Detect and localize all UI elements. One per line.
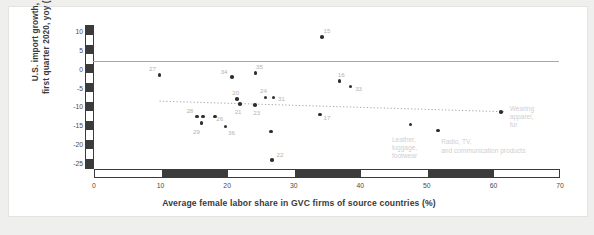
band-segment <box>86 64 93 73</box>
trend-line-segment <box>160 101 506 112</box>
plot-area: 2734351516332021243123282629361722Wearin… <box>93 25 559 169</box>
x-tick-label: 30 <box>279 182 309 189</box>
data-point-label: 21 <box>235 107 242 114</box>
x-axis-checkered-band <box>94 169 560 178</box>
band-segment <box>86 140 93 149</box>
data-point-label: 23 <box>253 108 260 115</box>
data-point-label: 33 <box>355 85 362 92</box>
y-tick-label: 5 <box>53 46 83 53</box>
x-tick-label: 60 <box>478 182 508 189</box>
data-point-label: 22 <box>277 151 284 158</box>
y-axis-title-line-1: U.S. import growth, <box>30 0 41 112</box>
band-segment <box>162 170 229 177</box>
x-tick-label: 0 <box>79 182 109 189</box>
annotation-radio-tv-communication: Radio, TV, and communication products <box>441 138 525 154</box>
band-segment <box>428 170 495 177</box>
band-segment <box>86 83 93 92</box>
band-segment <box>86 102 93 111</box>
y-tick-label: -5 <box>53 84 83 91</box>
data-point-label: 29 <box>193 128 200 135</box>
data-point-label: 34 <box>221 68 228 75</box>
y-tick-label: 0 <box>53 65 83 72</box>
y-tick-label: -10 <box>53 103 83 110</box>
figure-canvas: U.S. import growth, first quarter 2020, … <box>0 0 594 235</box>
data-point-label: 26 <box>216 115 223 122</box>
y-tick-label: -20 <box>53 141 83 148</box>
y-axis-tick-labels: 1050-5-10-15-20-25 <box>49 25 83 169</box>
data-point-label: 35 <box>256 62 263 69</box>
data-point-label: 15 <box>324 26 331 33</box>
data-point[interactable] <box>253 103 257 107</box>
y-tick-label: -25 <box>53 160 83 167</box>
data-point[interactable] <box>235 97 239 101</box>
data-point[interactable] <box>318 113 322 117</box>
band-segment <box>295 170 362 177</box>
data-point[interactable] <box>201 115 205 119</box>
x-axis-title: Average female labor share in GVC firms … <box>49 198 549 208</box>
chart-card: U.S. import growth, first quarter 2020, … <box>8 6 588 217</box>
data-point[interactable] <box>254 71 258 75</box>
y-tick-label: -15 <box>53 122 83 129</box>
x-axis-tick-labels: 010203040506070 <box>94 182 560 194</box>
data-point[interactable] <box>499 110 503 114</box>
data-point-label: 24 <box>260 87 267 94</box>
data-point[interactable] <box>436 129 440 133</box>
data-point[interactable] <box>338 79 342 83</box>
band-segment <box>86 26 93 35</box>
data-point-label: 31 <box>278 95 285 102</box>
annotation-leather-luggage-footwear: Leather, luggage, footwear <box>392 136 417 161</box>
data-point-label: 27 <box>149 65 156 72</box>
data-point[interactable] <box>320 35 324 39</box>
y-tick-label: 10 <box>53 27 83 34</box>
band-segment <box>86 159 93 168</box>
band-segment <box>86 45 93 54</box>
data-point[interactable] <box>230 75 234 79</box>
x-tick-label: 50 <box>412 182 442 189</box>
annotation-wearing-apparel-fur: Wearing apparel, fur <box>510 105 559 130</box>
data-point-label: 28 <box>186 107 193 114</box>
data-point[interactable] <box>195 115 199 119</box>
data-point[interactable] <box>269 130 273 134</box>
band-segment <box>86 121 93 130</box>
data-point-label: 17 <box>324 114 331 121</box>
data-point-label: 16 <box>338 71 345 78</box>
x-tick-label: 10 <box>146 182 176 189</box>
data-point-label: 20 <box>232 89 239 96</box>
x-tick-label: 20 <box>212 182 242 189</box>
x-tick-label: 70 <box>545 182 575 189</box>
x-tick-label: 40 <box>345 182 375 189</box>
data-point-label: 36 <box>228 128 235 135</box>
data-point[interactable] <box>238 102 242 106</box>
data-point[interactable] <box>270 158 274 162</box>
